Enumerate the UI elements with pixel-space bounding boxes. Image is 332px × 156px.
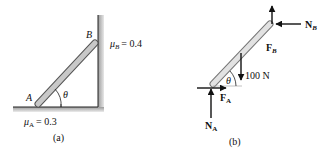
mu-b-label: μB= 0.4	[109, 38, 142, 51]
point-a-label: A	[25, 92, 33, 103]
wall-hatch	[98, 15, 104, 110]
force-na-label: NA	[205, 120, 217, 133]
floor-hatch	[13, 107, 104, 112]
angle-theta-label: θ	[63, 89, 68, 100]
figure-b: θ FB NB 100 N FA NA (b)	[197, 6, 317, 148]
point-b-label: B	[86, 29, 92, 40]
force-fb-label: FB	[266, 42, 277, 55]
angle-theta-label: θ	[226, 75, 231, 86]
force-nb-label: NB	[305, 19, 317, 32]
weight-label: 100 N	[245, 70, 270, 81]
force-fa-label: FA	[220, 92, 231, 105]
angle-arc	[55, 89, 61, 107]
figure-a: A B θ μA= 0.3 μB= 0.4 (a)	[13, 15, 142, 144]
caption-a: (a)	[53, 132, 64, 144]
ladder-friction-diagram: A B θ μA= 0.3 μB= 0.4 (a) θ FB NB 100	[0, 0, 332, 156]
mu-a-label: μA= 0.3	[23, 116, 57, 129]
caption-b: (b)	[229, 136, 241, 148]
